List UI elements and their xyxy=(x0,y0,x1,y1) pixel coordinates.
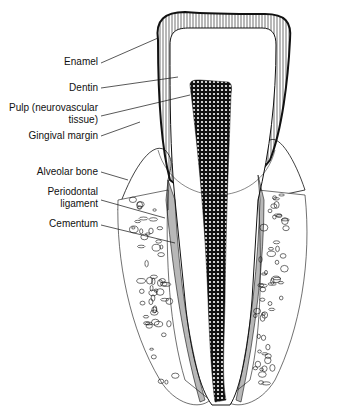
label-dentin: Dentin xyxy=(69,82,98,94)
leader-alveolar xyxy=(101,172,128,180)
label-periodontal-ligament: Periodontalligament xyxy=(47,186,98,210)
label-enamel: Enamel xyxy=(64,56,98,68)
label-gingival-margin: Gingival margin xyxy=(29,130,98,142)
label-alveolar-bone: Alveolar bone xyxy=(37,166,98,178)
leader-gingival xyxy=(101,122,140,136)
label-pulp: Pulp (neurovasculartissue) xyxy=(9,102,98,126)
label-cementum: Cementum xyxy=(49,218,98,230)
leader-enamel xyxy=(101,38,158,63)
